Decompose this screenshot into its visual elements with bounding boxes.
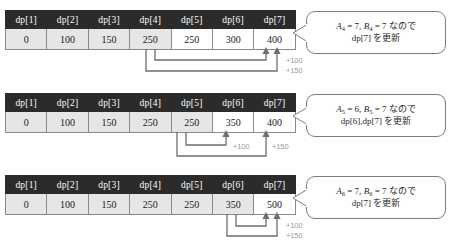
column-header: dp[7] <box>254 11 295 29</box>
callout-tail-icon <box>292 23 308 43</box>
column-header: dp[5] <box>171 11 212 29</box>
callout-step-2: A5 = 6, B5 = 7 なので dp[6],dp[7] を更新 <box>306 94 446 137</box>
delta-label-150: +150 <box>286 231 303 240</box>
column-header: dp[1] <box>6 176 47 194</box>
dp-cell: 0 <box>6 112 47 133</box>
callout-suffix: なので <box>389 21 416 31</box>
dp-cell: 100 <box>47 29 88 50</box>
table-value-row: 0 100 150 250 250 300 400 <box>6 29 296 50</box>
var-b-value: = 7 <box>375 186 387 196</box>
callout-line-2: dp[7] を更新 <box>352 198 401 209</box>
table-header-row: dp[1] dp[2] dp[3] dp[4] dp[5] dp[6] dp[7… <box>6 11 296 29</box>
column-header: dp[1] <box>6 11 47 29</box>
dp-cell: 150 <box>88 29 129 50</box>
column-header: dp[5] <box>171 176 212 194</box>
dp-cell: 300 <box>212 29 253 50</box>
column-header: dp[7] <box>254 176 295 194</box>
var-a-value: = 7, <box>347 186 361 196</box>
callout-suffix: なので <box>389 186 416 196</box>
column-header: dp[6] <box>212 94 253 112</box>
delta-label-150: +150 <box>272 142 289 151</box>
callout-suffix: なので <box>389 104 416 114</box>
column-header: dp[2] <box>47 94 88 112</box>
dp-cell: 400 <box>254 112 295 133</box>
delta-label-100: +100 <box>286 221 303 230</box>
dp-cell: 250 <box>171 29 212 50</box>
dp-cell: 100 <box>47 194 88 215</box>
dp-cell: 0 <box>6 29 47 50</box>
table-value-row: 0 100 150 250 250 350 400 <box>6 112 296 133</box>
callout-step-3: A6 = 7, B6 = 7 なので dp[7] を更新 <box>306 176 446 219</box>
callout-line-1: A5 = 6, B5 = 7 なので <box>336 104 415 115</box>
dp-cell: 250 <box>130 29 171 50</box>
var-a-subscript: 6 <box>342 190 345 197</box>
dp-cell: 150 <box>88 112 129 133</box>
dp-diagram: dp[1] dp[2] dp[3] dp[4] dp[5] dp[6] dp[7… <box>0 0 458 248</box>
column-header: dp[6] <box>212 176 253 194</box>
callout-tail-icon <box>292 188 308 208</box>
var-a: A <box>336 21 342 31</box>
dp-cell: 0 <box>6 194 47 215</box>
table-header-row: dp[1] dp[2] dp[3] dp[4] dp[5] dp[6] dp[7… <box>6 94 296 112</box>
dp-table-step-3: dp[1] dp[2] dp[3] dp[4] dp[5] dp[6] dp[7… <box>5 175 296 215</box>
var-a-value: = 7, <box>347 21 361 31</box>
delta-label-150: +150 <box>286 66 303 75</box>
var-a: A <box>336 186 342 196</box>
dp-cell: 400 <box>254 29 295 50</box>
var-a-subscript: 4 <box>342 25 345 32</box>
column-header: dp[3] <box>88 176 129 194</box>
callout-line-1: A6 = 7, B6 = 7 なので <box>336 186 415 197</box>
var-a-subscript: 5 <box>342 108 345 115</box>
column-header: dp[6] <box>212 11 253 29</box>
dp-step-1: dp[1] dp[2] dp[3] dp[4] dp[5] dp[6] dp[7… <box>0 3 458 83</box>
dp-cell: 250 <box>130 194 171 215</box>
dp-cell: 350 <box>212 194 253 215</box>
column-header: dp[2] <box>47 176 88 194</box>
dp-cell: 150 <box>88 194 129 215</box>
dp-cell: 350 <box>212 112 253 133</box>
delta-label-100: +100 <box>233 142 250 151</box>
column-header: dp[5] <box>171 94 212 112</box>
column-header: dp[2] <box>47 11 88 29</box>
var-a-value: = 6, <box>347 104 361 114</box>
callout-step-1: A4 = 7, B4 = 7 なので dp[7] を更新 <box>306 11 446 54</box>
table-value-row: 0 100 150 250 250 350 500 <box>6 194 296 215</box>
dp-table-step-2: dp[1] dp[2] dp[3] dp[4] dp[5] dp[6] dp[7… <box>5 93 296 133</box>
var-b-value: = 7 <box>375 21 387 31</box>
var-a: A <box>336 104 342 114</box>
dp-step-3: dp[1] dp[2] dp[3] dp[4] dp[5] dp[6] dp[7… <box>0 168 458 248</box>
column-header: dp[7] <box>254 94 295 112</box>
dp-cell: 500 <box>254 194 295 215</box>
dp-step-2: dp[1] dp[2] dp[3] dp[4] dp[5] dp[6] dp[7… <box>0 86 458 166</box>
column-header: dp[3] <box>88 11 129 29</box>
callout-line-1: A4 = 7, B4 = 7 なので <box>336 21 415 32</box>
var-b-subscript: 6 <box>369 190 372 197</box>
dp-cell: 250 <box>171 112 212 133</box>
delta-label-100: +100 <box>286 56 303 65</box>
callout-line-2: dp[6],dp[7] を更新 <box>341 116 412 127</box>
column-header: dp[4] <box>130 176 171 194</box>
dp-cell: 100 <box>47 112 88 133</box>
var-b-subscript: 4 <box>369 25 372 32</box>
column-header: dp[4] <box>130 11 171 29</box>
callout-tail-icon <box>292 106 308 126</box>
column-header: dp[4] <box>130 94 171 112</box>
column-header: dp[1] <box>6 94 47 112</box>
var-b-subscript: 5 <box>369 108 372 115</box>
column-header: dp[3] <box>88 94 129 112</box>
table-header-row: dp[1] dp[2] dp[3] dp[4] dp[5] dp[6] dp[7… <box>6 176 296 194</box>
dp-cell: 250 <box>130 112 171 133</box>
callout-line-2: dp[7] を更新 <box>352 33 401 44</box>
var-b-value: = 7 <box>375 104 387 114</box>
dp-table-step-1: dp[1] dp[2] dp[3] dp[4] dp[5] dp[6] dp[7… <box>5 10 296 50</box>
dp-cell: 250 <box>171 194 212 215</box>
